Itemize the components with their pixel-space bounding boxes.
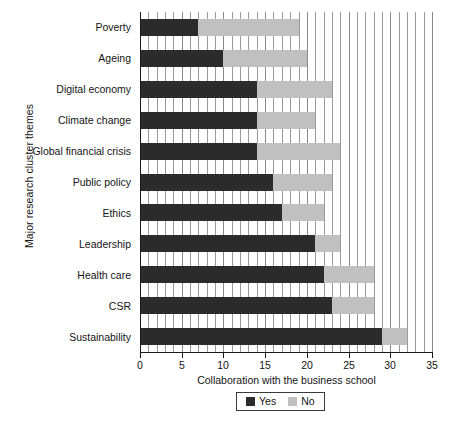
y-axis-line <box>140 12 141 353</box>
category-label: Public policy <box>73 176 131 188</box>
x-axis-tick <box>390 353 391 358</box>
bar-segment-no <box>198 19 298 36</box>
legend-item[interactable]: Yes <box>246 396 276 407</box>
bar-segment-yes <box>140 174 273 191</box>
x-axis-tick <box>223 353 224 358</box>
bar-row <box>140 235 432 252</box>
bar-series-container <box>140 12 432 352</box>
x-axis-tick-label: 30 <box>375 359 405 371</box>
legend-swatch-icon <box>288 397 297 406</box>
bar-row <box>140 266 432 283</box>
x-axis-tick <box>307 353 308 358</box>
bar-row <box>140 328 432 345</box>
x-axis-tick <box>349 353 350 358</box>
category-label: Leadership <box>79 238 131 250</box>
x-axis-tick-label: 20 <box>292 359 322 371</box>
bar-segment-no <box>257 81 332 98</box>
category-label: Climate change <box>58 114 131 126</box>
bar-segment-no <box>257 112 315 129</box>
category-label: Poverty <box>95 21 131 33</box>
bar-row <box>140 143 432 160</box>
x-axis-tick-label: 10 <box>208 359 238 371</box>
legend-label: Yes <box>259 396 276 407</box>
category-label: Digital economy <box>56 83 131 95</box>
bar-row <box>140 50 432 67</box>
bar-segment-no <box>273 174 331 191</box>
bar-segment-no <box>223 50 306 67</box>
legend-label: No <box>301 396 314 407</box>
x-axis-tick <box>432 353 433 358</box>
bar-row <box>140 174 432 191</box>
bar-segment-yes <box>140 204 282 221</box>
bar-segment-yes <box>140 19 198 36</box>
plot-area <box>140 12 432 352</box>
category-axis-labels: PovertyAgeingDigital economyClimate chan… <box>0 12 135 352</box>
bar-segment-yes <box>140 328 382 345</box>
bar-segment-yes <box>140 81 257 98</box>
bar-row <box>140 19 432 36</box>
category-label: Sustainability <box>69 331 131 343</box>
chart-legend: YesNo <box>236 392 325 411</box>
bar-segment-yes <box>140 112 257 129</box>
category-label: CSR <box>109 300 131 312</box>
bar-segment-yes <box>140 266 324 283</box>
bar-segment-no <box>257 143 340 160</box>
bar-segment-yes <box>140 297 332 314</box>
category-label: Global financial crisis <box>32 145 131 157</box>
bar-segment-no <box>332 297 374 314</box>
bar-segment-no <box>382 328 407 345</box>
bar-chart: Major research cluster themes PovertyAge… <box>0 0 453 432</box>
x-axis-tick <box>182 353 183 358</box>
x-axis-tick-label: 0 <box>125 359 155 371</box>
x-axis-tick <box>265 353 266 358</box>
x-axis-title: Collaboration with the business school <box>140 374 433 386</box>
x-axis-tick-label: 5 <box>167 359 197 371</box>
category-label: Ageing <box>98 52 131 64</box>
bar-segment-no <box>324 266 374 283</box>
bar-segment-no <box>282 204 324 221</box>
bar-segment-yes <box>140 143 257 160</box>
bar-row <box>140 204 432 221</box>
bar-segment-yes <box>140 235 315 252</box>
legend-item[interactable]: No <box>288 396 314 407</box>
x-axis-tick-label: 35 <box>417 359 447 371</box>
bar-row <box>140 297 432 314</box>
x-axis-tick <box>140 353 141 358</box>
bar-segment-no <box>315 235 340 252</box>
bar-segment-yes <box>140 50 223 67</box>
bar-row <box>140 81 432 98</box>
bar-row <box>140 112 432 129</box>
category-label: Health care <box>77 269 131 281</box>
gridline <box>432 12 433 352</box>
category-label: Ethics <box>102 207 131 219</box>
x-axis-tick-label: 25 <box>334 359 364 371</box>
legend-swatch-icon <box>246 397 255 406</box>
x-axis-tick-label: 15 <box>250 359 280 371</box>
